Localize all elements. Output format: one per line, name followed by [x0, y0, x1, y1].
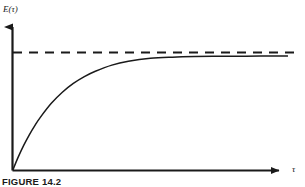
figure-caption: FIGURE 14.2	[2, 176, 61, 187]
exponential-rise-curve	[13, 56, 288, 170]
figure-container: E(τ) τ FIGURE 14.2	[0, 0, 305, 187]
x-axis-label: τ	[292, 164, 296, 174]
y-axis-label: E(τ)	[2, 4, 18, 14]
chart-canvas: E(τ) τ	[0, 0, 305, 187]
